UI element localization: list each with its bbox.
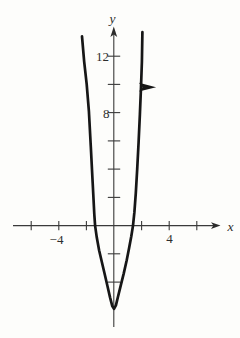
y-axis-label: y <box>108 11 116 26</box>
parabola-curve <box>82 32 142 309</box>
parabola-figure: y x 12 8 −4 4 <box>0 0 240 338</box>
x-tick-label-4: 4 <box>166 231 173 246</box>
graph-canvas: y x 12 8 −4 4 <box>0 0 240 338</box>
x-axis-label: x <box>227 219 234 234</box>
curve-group <box>82 32 156 309</box>
y-tick-label-12: 12 <box>96 49 109 64</box>
x-tick-label-neg4: −4 <box>50 232 64 247</box>
y-tick-label-8: 8 <box>103 106 110 121</box>
